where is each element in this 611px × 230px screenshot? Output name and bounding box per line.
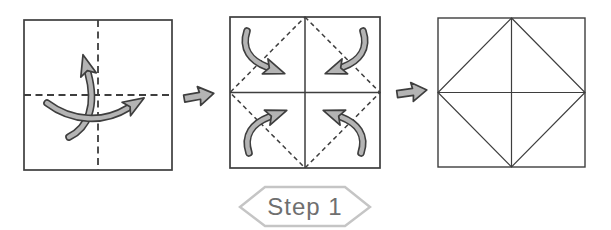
step-badge-label: Step 1 [267,193,342,220]
origami-diagram: Step 1 [0,0,611,230]
panel-unfolded-square [24,20,172,170]
next-step-arrow-icon [183,84,216,108]
panel-cross-creased-square [230,17,380,168]
panel-blintz-folded-square [438,18,585,167]
step-badge: Step 1 [240,187,370,226]
next-step-arrow-icon [396,81,428,104]
diagram-canvas: Step 1 [0,0,611,230]
